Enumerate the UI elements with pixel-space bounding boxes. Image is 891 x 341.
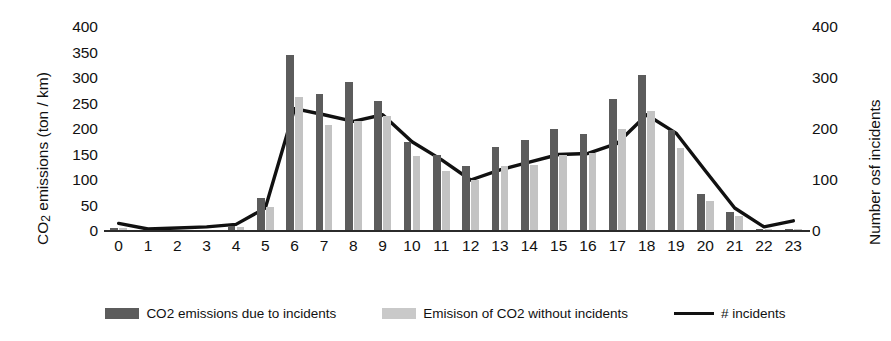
bar-group — [427, 27, 456, 231]
x-axis-tick: 9 — [368, 236, 397, 257]
legend-item[interactable]: # incidents — [674, 306, 786, 321]
bar-without-incidents — [354, 121, 362, 231]
bar-without-incidents — [442, 171, 450, 231]
bar-group — [456, 27, 485, 231]
y-axis-left-tick: 0 — [89, 223, 98, 239]
bar-without-incidents — [325, 125, 333, 231]
light-square-swatch — [382, 308, 416, 319]
bar-group — [163, 27, 192, 231]
x-axis-tick: 3 — [192, 236, 221, 257]
bar-with-incidents — [433, 155, 441, 232]
x-axis-tick: 2 — [163, 236, 192, 257]
bar-without-incidents — [618, 129, 626, 231]
bar-with-incidents — [580, 134, 588, 231]
y-axis-right-tick: 400 — [812, 19, 838, 35]
y-axis-left-title: CO2 emissions (ton / km) — [34, 72, 53, 245]
dark-square-swatch — [105, 308, 139, 319]
bar-with-incidents — [316, 94, 324, 231]
bar-with-incidents — [404, 142, 412, 231]
legend-item-label: # incidents — [721, 306, 786, 321]
bar-group — [573, 27, 602, 231]
bar-group — [691, 27, 720, 231]
y-axis-left-tick: 350 — [72, 45, 98, 61]
y-axis-right-tick: 300 — [812, 70, 838, 86]
y-axis-right-tick: 0 — [812, 223, 821, 239]
bar-group — [133, 27, 162, 231]
bar-group — [280, 27, 309, 231]
y-axis-left-tick: 200 — [72, 121, 98, 137]
bar-without-incidents — [559, 155, 567, 232]
x-axis-tick: 19 — [661, 236, 690, 257]
bar-without-incidents — [530, 165, 538, 231]
bar-group — [104, 27, 133, 231]
bar-without-incidents — [413, 156, 421, 231]
bar-with-incidents — [697, 194, 705, 231]
bar-group — [544, 27, 573, 231]
x-axis-tick: 21 — [720, 236, 749, 257]
x-axis-tick: 5 — [251, 236, 280, 257]
y-axis-left-tick: 250 — [72, 96, 98, 112]
x-axis-tick: 23 — [779, 236, 808, 257]
y-axis-left-tick: 150 — [72, 147, 98, 163]
bar-without-incidents — [266, 207, 274, 231]
plot-area — [104, 27, 808, 231]
y-axis-left-tick: 50 — [81, 198, 98, 214]
chart-legend: CO2 emissions due to incidentsEmisison o… — [0, 300, 891, 326]
x-axis-tick: 10 — [397, 236, 426, 257]
bar-group — [603, 27, 632, 231]
bar-without-incidents — [589, 153, 597, 231]
legend-item[interactable]: CO2 emissions due to incidents — [105, 306, 336, 321]
bar-group — [749, 27, 778, 231]
y-axis-right-tick: 100 — [812, 172, 838, 188]
bar-group — [309, 27, 338, 231]
x-axis-tick: 14 — [515, 236, 544, 257]
bar-group — [251, 27, 280, 231]
x-axis-tick: 20 — [691, 236, 720, 257]
bar-group — [720, 27, 749, 231]
bar-with-incidents — [257, 198, 265, 231]
x-axis-tick: 4 — [221, 236, 250, 257]
bar-without-incidents — [735, 216, 743, 231]
bar-without-incidents — [647, 111, 655, 231]
bar-without-incidents — [706, 201, 714, 231]
x-axis-tick: 17 — [603, 236, 632, 257]
bar-with-incidents — [374, 101, 382, 231]
x-axis-tick: 18 — [632, 236, 661, 257]
legend-item-label: CO2 emissions due to incidents — [146, 306, 336, 321]
bar-with-incidents — [726, 212, 734, 231]
y-axis-right-title: Number osf incidents — [866, 99, 884, 245]
bar-without-incidents — [471, 180, 479, 231]
chart-figure: CO2 emissions (ton / km) Number osf inci… — [0, 0, 891, 341]
bar-group — [339, 27, 368, 231]
bar-with-incidents — [286, 55, 294, 231]
x-axis-line — [104, 230, 810, 232]
x-axis-tick: 11 — [427, 236, 456, 257]
bar-with-incidents — [668, 130, 676, 231]
black-line-swatch — [674, 312, 714, 315]
bar-with-incidents — [609, 99, 617, 231]
x-axis-tick: 7 — [309, 236, 338, 257]
y-axis-left-title-suffix: emissions (ton / km) — [34, 72, 51, 215]
legend-item-label: Emisison of CO2 without incidents — [423, 306, 628, 321]
x-axis-tick: 12 — [456, 236, 485, 257]
bar-group — [661, 27, 690, 231]
x-axis-tick: 8 — [339, 236, 368, 257]
bar-group — [368, 27, 397, 231]
bar-group — [221, 27, 250, 231]
x-axis-tick: 22 — [749, 236, 778, 257]
bar-group — [485, 27, 514, 231]
bar-group — [192, 27, 221, 231]
y-axis-right-tick: 200 — [812, 121, 838, 137]
y-axis-left-title-prefix: CO — [34, 222, 51, 245]
bar-without-incidents — [677, 148, 685, 231]
bar-group — [632, 27, 661, 231]
bar-with-incidents — [492, 147, 500, 231]
legend-item[interactable]: Emisison of CO2 without incidents — [382, 306, 628, 321]
y-axis-left-tick: 100 — [72, 172, 98, 188]
y-axis-left-tick: 400 — [72, 19, 98, 35]
y-axis-left-tick: 300 — [72, 70, 98, 86]
x-axis-tick: 15 — [544, 236, 573, 257]
bar-with-incidents — [462, 166, 470, 231]
x-axis-tick: 1 — [133, 236, 162, 257]
bar-without-incidents — [383, 116, 391, 231]
